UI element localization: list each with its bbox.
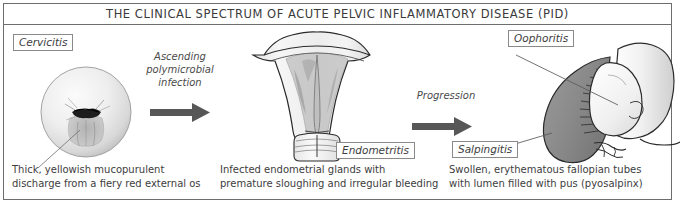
caption-cervicitis-line2: discharge from a fiery red external os	[12, 177, 201, 191]
label-oophoritis: Oophoritis	[508, 30, 574, 47]
page-title: THE CLINICAL SPECTRUM OF ACUTE PELVIC IN…	[106, 7, 569, 21]
transition-ascending-line2: polymicrobial	[134, 63, 226, 76]
arrow-progression	[412, 117, 474, 137]
caption-salpingitis-line2: with lumen filled with pus (pyosalpinx)	[449, 177, 643, 191]
label-cervicitis: Cervicitis	[13, 34, 73, 51]
caption-endometritis-line2: premature sloughing and irregular bleedi…	[220, 177, 438, 191]
right-arrow-icon	[150, 103, 212, 123]
label-salpingitis: Salpingitis	[452, 141, 518, 158]
caption-cervicitis-line1: Thick, yellowish mucopurulent	[12, 163, 164, 177]
diagram-canvas: Cervicitis	[4, 25, 671, 200]
adnexa-pyosalpinx-figure	[490, 27, 680, 167]
adnexa-illustration	[490, 27, 680, 167]
cervix-illustration	[32, 60, 142, 165]
label-endometritis: Endometritis	[336, 142, 415, 159]
caption-endometritis-line1: Infected endometrial glands with	[220, 163, 385, 177]
right-arrow-icon	[412, 117, 474, 137]
caption-salpingitis-line1: Swollen, erythematous fallopian tubes	[449, 163, 641, 177]
transition-ascending-line1: Ascending	[134, 50, 226, 63]
arrow-ascending-infection	[150, 103, 212, 123]
transition-progression-line1: Progression	[400, 89, 492, 102]
cervix-speculum-view-figure	[32, 60, 142, 165]
transition-ascending-line3: infection	[134, 76, 226, 89]
diagram-title-bar: THE CLINICAL SPECTRUM OF ACUTE PELVIC IN…	[4, 4, 671, 25]
diagram-frame: THE CLINICAL SPECTRUM OF ACUTE PELVIC IN…	[3, 3, 672, 200]
